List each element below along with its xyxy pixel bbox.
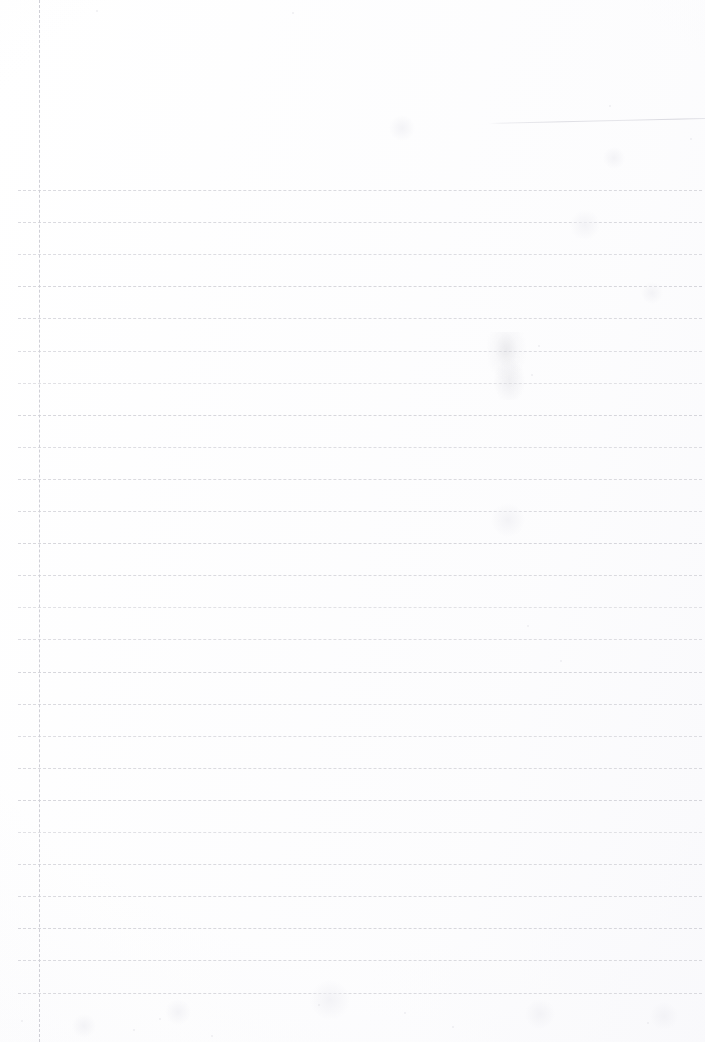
- ruled-line: [18, 351, 702, 352]
- ruled-line: [18, 736, 702, 737]
- ruled-line: [18, 607, 702, 608]
- scan-speck: [531, 374, 533, 376]
- ruled-line: [18, 190, 702, 191]
- scan-blotch: [525, 999, 555, 1029]
- scan-speck: [538, 345, 540, 347]
- ruled-line: [18, 639, 702, 640]
- scan-streak-artifact: [489, 118, 705, 124]
- paper-color-cast-overlay: [0, 0, 705, 1042]
- scan-blotch: [72, 1014, 96, 1038]
- scan-speck: [21, 1020, 23, 1022]
- scan-blotch: [650, 1002, 678, 1030]
- scanned-notebook-page: [0, 0, 705, 1042]
- ruled-line: [18, 222, 702, 223]
- ruled-line: [18, 864, 702, 865]
- scan-speck: [159, 1018, 161, 1020]
- scan-speck: [292, 12, 294, 14]
- scan-speck: [318, 1004, 320, 1006]
- scan-speck: [404, 1012, 406, 1014]
- scan-blotch: [570, 210, 600, 240]
- scan-blotch: [641, 282, 663, 304]
- ruled-line: [18, 286, 702, 287]
- ruled-line: [18, 543, 702, 544]
- scan-speck: [647, 1022, 649, 1024]
- pencil-smudge-artifact: [487, 332, 527, 400]
- ruled-line: [18, 768, 702, 769]
- paper-texture-overlay: [0, 0, 705, 1042]
- ruled-line: [18, 704, 702, 705]
- scan-speck: [452, 1026, 454, 1028]
- scan-speck: [211, 1035, 213, 1037]
- scan-speck: [690, 138, 692, 140]
- ruled-line: [18, 575, 702, 576]
- ruled-lines-group: [0, 0, 705, 1042]
- ruled-line: [18, 672, 702, 673]
- ruled-line: [18, 511, 702, 512]
- ruled-line: [18, 318, 702, 319]
- ruled-line: [18, 993, 702, 994]
- scan-blotch: [491, 503, 525, 537]
- scan-blotch: [165, 999, 191, 1025]
- ruled-line: [18, 254, 702, 255]
- ruled-line: [18, 832, 702, 833]
- ruled-line: [18, 383, 702, 384]
- ruled-line: [18, 960, 702, 961]
- scan-speck: [96, 10, 98, 12]
- ruled-line: [18, 447, 702, 448]
- ruled-line: [18, 928, 702, 929]
- ruled-line: [18, 415, 702, 416]
- ruled-line: [18, 800, 702, 801]
- vertical-margin-line: [39, 0, 40, 1042]
- scan-blotch: [310, 980, 350, 1020]
- scan-blotch: [603, 147, 625, 169]
- scan-speck: [560, 660, 562, 662]
- scan-blotch: [389, 115, 415, 141]
- scan-speck: [527, 625, 529, 627]
- ruled-line: [18, 896, 702, 897]
- ruled-line: [18, 479, 702, 480]
- scan-speck: [133, 1029, 135, 1031]
- scan-speck: [609, 105, 611, 107]
